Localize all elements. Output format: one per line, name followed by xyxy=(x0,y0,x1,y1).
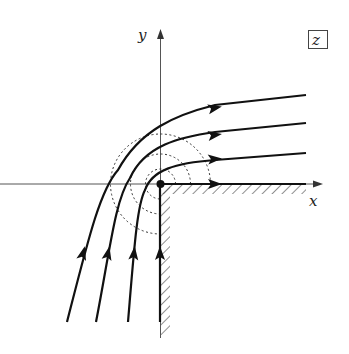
x-axis-arrow-icon xyxy=(313,181,323,188)
x-axis-label: x xyxy=(309,192,318,210)
streamline xyxy=(96,123,306,322)
flow-arrow-icon xyxy=(208,154,223,165)
streamline xyxy=(160,184,306,322)
flow-diagram: x y z xyxy=(0,0,349,354)
wall-hatch-horizontal xyxy=(162,185,306,194)
y-axis-arrow-icon xyxy=(157,29,164,39)
streamline xyxy=(128,153,306,322)
y-axis-label: y xyxy=(137,26,147,44)
origin-point xyxy=(157,180,165,188)
streamlines xyxy=(67,95,306,322)
wall-hatch-vertical xyxy=(161,185,170,335)
plane-label: z xyxy=(311,31,320,49)
